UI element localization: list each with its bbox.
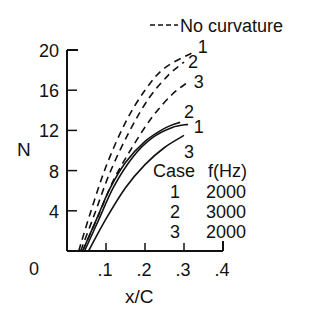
legend-row-2-f: 3000 <box>206 202 246 222</box>
y-tick-label: 4 <box>49 202 59 222</box>
legend-header-f: f(Hz) <box>208 161 247 181</box>
y-ticks: 48121620 <box>39 41 77 222</box>
y-tick-label: 16 <box>39 81 59 101</box>
y-tick-label: 20 <box>39 41 59 61</box>
curve-labels: 123213 <box>184 37 208 162</box>
legend-row-2-case: 2 <box>170 202 180 222</box>
legend-row-3-f: 2000 <box>206 222 246 242</box>
legend-case-table: Case f(Hz) 1 2000 2 3000 3 2000 <box>153 161 247 242</box>
curve-case-2 <box>83 122 181 251</box>
legend-no-curvature-label: No curvature <box>180 16 283 36</box>
legend-header-case: Case <box>153 161 195 181</box>
x-tick-label: .1 <box>97 260 112 280</box>
curve-label: 2 <box>188 52 198 72</box>
curve-label: 1 <box>194 117 204 137</box>
y-tick-label: 8 <box>49 162 59 182</box>
x-tick-label: .2 <box>136 260 151 280</box>
curve-label: 3 <box>184 142 194 162</box>
x-axis-title: x/C <box>125 286 154 307</box>
curve-label: 3 <box>194 72 204 92</box>
y-axis-title: N <box>17 139 31 160</box>
legend-row-1-f: 2000 <box>206 182 246 202</box>
x-tick-label: .4 <box>214 260 229 280</box>
legend-row-1-case: 1 <box>170 182 180 202</box>
legend-no-curvature: No curvature <box>150 16 283 36</box>
x-ticks: .1.2.3.4 <box>97 243 229 280</box>
chart: 48121620 .1.2.3.4 123213 0 N x/C No curv… <box>0 0 317 317</box>
legend-row-3-case: 3 <box>170 222 180 242</box>
y-tick-label: 12 <box>39 121 59 141</box>
x-tick-label: .3 <box>175 260 190 280</box>
curve-label: 2 <box>184 102 194 122</box>
origin-label: 0 <box>29 259 39 279</box>
curve-label: 1 <box>198 37 208 57</box>
